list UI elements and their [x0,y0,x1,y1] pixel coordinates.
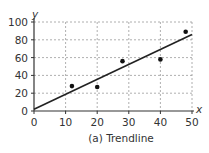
data-point [95,85,100,90]
trendline [34,34,192,109]
data-point [120,59,125,64]
y-tick-label: 60 [15,52,28,64]
x-tick-label: 20 [91,116,104,128]
x-tick-label: 40 [154,116,167,128]
x-axis-label: x [195,103,203,115]
data-point [183,29,188,34]
x-tick-label: 0 [31,116,38,128]
y-tick-label: 80 [15,34,28,46]
x-tick-label: 50 [185,116,198,128]
chart-caption: (a) Trendline [88,132,154,144]
x-tick-label: 10 [59,116,72,128]
y-tick-label: 100 [8,16,28,28]
trendline-path [34,34,192,109]
data-point [70,84,75,89]
x-tick-label: 30 [122,116,135,128]
y-tick-label: 40 [15,69,28,81]
y-tick-label: 0 [21,105,28,117]
y-tick-label: 20 [15,87,28,99]
y-axis-label: y [31,8,39,20]
data-point [158,57,163,62]
trendline-chart: 01020304050020406080100 x y (a) Trendlin… [0,0,209,153]
